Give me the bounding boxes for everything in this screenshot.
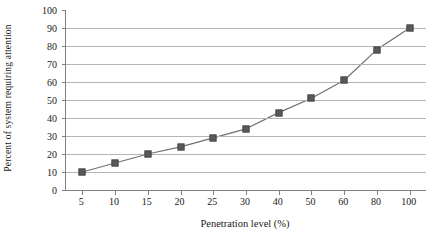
data-point-marker <box>79 169 86 176</box>
x-tick-label: 10 <box>109 196 119 207</box>
data-point-marker <box>406 25 413 32</box>
x-tick-mark <box>181 190 182 195</box>
x-axis-title: Penetration level (%) <box>65 218 425 229</box>
gridline <box>66 172 426 173</box>
y-tick-label: 100 <box>42 5 57 16</box>
x-tick-mark <box>377 190 378 195</box>
y-tick-label: 70 <box>47 59 57 70</box>
x-tick-label: 5 <box>79 196 84 207</box>
chart-figure: Percent of system requiring attention 01… <box>0 0 439 242</box>
y-axis-title-text: Percent of system requiring attention <box>3 24 13 171</box>
y-tick-label: 40 <box>47 113 57 124</box>
data-point-marker <box>210 134 217 141</box>
data-point-marker <box>308 95 315 102</box>
data-point-marker <box>275 109 282 116</box>
x-tick-mark <box>148 190 149 195</box>
gridline <box>66 154 426 155</box>
y-tick-label: 10 <box>47 167 57 178</box>
y-tick-mark <box>62 190 66 191</box>
y-tick-mark <box>62 10 66 11</box>
gridline <box>66 28 426 29</box>
data-point-marker <box>177 143 184 150</box>
x-tick-label: 50 <box>305 196 315 207</box>
x-tick-mark <box>115 190 116 195</box>
y-tick-label: 80 <box>47 41 57 52</box>
y-tick-label: 60 <box>47 77 57 88</box>
gridline <box>66 82 426 83</box>
x-tick-mark <box>213 190 214 195</box>
y-tick-label: 20 <box>47 149 57 160</box>
x-tick-mark <box>82 190 83 195</box>
y-axis-title: Percent of system requiring attention <box>0 0 16 196</box>
y-tick-label: 30 <box>47 131 57 142</box>
x-tick-mark <box>279 190 280 195</box>
x-axis-tick-labels: 5101520253040506080100 <box>65 196 425 212</box>
x-tick-label: 40 <box>273 196 283 207</box>
y-tick-label: 0 <box>52 185 57 196</box>
x-tick-label: 30 <box>240 196 250 207</box>
y-tick-label: 50 <box>47 95 57 106</box>
x-tick-mark <box>410 190 411 195</box>
x-tick-label: 60 <box>338 196 348 207</box>
gridline <box>66 100 426 101</box>
x-tick-mark <box>311 190 312 195</box>
data-point-marker <box>373 46 380 53</box>
data-point-marker <box>243 125 250 132</box>
x-tick-label: 20 <box>175 196 185 207</box>
gridline <box>66 46 426 47</box>
y-axis-tick-labels: 0102030405060708090100 <box>16 10 62 190</box>
y-tick-label: 90 <box>47 23 57 34</box>
x-tick-mark <box>344 190 345 195</box>
data-point-marker <box>112 160 119 167</box>
gridline <box>66 118 426 119</box>
data-point-marker <box>341 77 348 84</box>
plot-area <box>65 10 426 191</box>
x-tick-label: 25 <box>207 196 217 207</box>
gridline <box>66 64 426 65</box>
data-point-marker <box>144 151 151 158</box>
x-tick-mark <box>246 190 247 195</box>
gridline <box>66 136 426 137</box>
x-tick-label: 100 <box>401 196 416 207</box>
x-tick-label: 15 <box>142 196 152 207</box>
x-tick-label: 80 <box>371 196 381 207</box>
